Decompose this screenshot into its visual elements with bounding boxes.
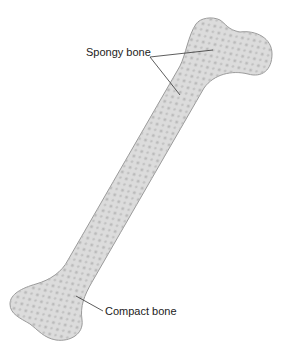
spongy-bone-texture	[10, 18, 272, 340]
compact-bone-label: Compact bone	[105, 305, 177, 317]
spongy-bone-label: Spongy bone	[86, 46, 151, 58]
